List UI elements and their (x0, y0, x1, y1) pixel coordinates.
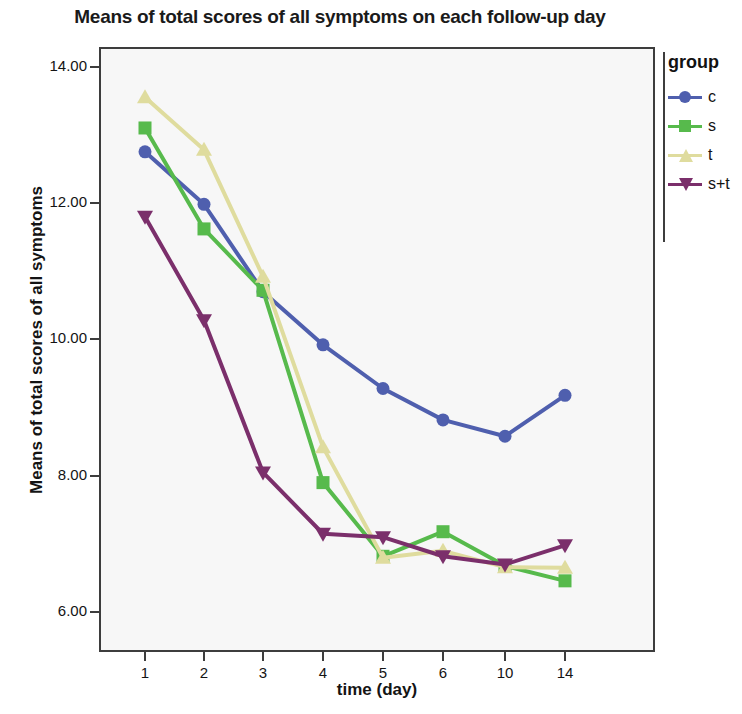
legend-title: group (668, 52, 742, 73)
legend-item-splust[interactable]: s+t (668, 171, 742, 197)
legend-item-label: s+t (708, 175, 730, 193)
legend-item-c[interactable]: c (668, 84, 742, 110)
legend-item-label: t (708, 146, 712, 164)
legend-item-s[interactable]: s (668, 113, 742, 139)
x-tick-label: 4 (303, 664, 343, 681)
x-tick-mark (144, 652, 146, 661)
legend-item-t[interactable]: t (668, 142, 742, 168)
legend-swatch-icon (668, 88, 702, 106)
x-tick-label: 10 (485, 664, 525, 681)
x-tick-mark (564, 652, 566, 661)
x-tick-label: 14 (545, 664, 585, 681)
legend-swatch-icon (668, 117, 702, 135)
x-tick-mark (382, 652, 384, 661)
y-tick-mark (90, 338, 99, 340)
y-tick-label: 10.00 (17, 329, 87, 346)
y-tick-label: 14.00 (17, 57, 87, 74)
x-tick-label: 2 (184, 664, 224, 681)
y-tick-mark (90, 611, 99, 613)
y-tick-label: 8.00 (17, 466, 87, 483)
y-tick-label: 6.00 (17, 602, 87, 619)
y-tick-mark (90, 66, 99, 68)
x-tick-mark (203, 652, 205, 661)
x-axis-title: time (day) (99, 680, 655, 700)
y-tick-mark (90, 202, 99, 204)
y-tick-mark (90, 475, 99, 477)
chart-figure: Means of total scores of all symptoms on… (0, 0, 742, 714)
y-tick-label: 12.00 (17, 193, 87, 210)
x-tick-label: 1 (125, 664, 165, 681)
plot-area (99, 47, 655, 652)
legend: group csts+t (668, 52, 742, 200)
x-tick-mark (504, 652, 506, 661)
x-tick-label: 3 (243, 664, 283, 681)
chart-title: Means of total scores of all symptoms on… (0, 6, 680, 28)
legend-item-label: c (708, 88, 716, 106)
legend-swatch-icon (668, 175, 702, 193)
legend-swatch-icon (668, 146, 702, 164)
x-tick-label: 6 (423, 664, 463, 681)
x-tick-label: 5 (363, 664, 403, 681)
legend-divider (663, 52, 665, 242)
x-tick-mark (322, 652, 324, 661)
x-tick-mark (442, 652, 444, 661)
legend-item-label: s (708, 117, 716, 135)
x-tick-mark (262, 652, 264, 661)
